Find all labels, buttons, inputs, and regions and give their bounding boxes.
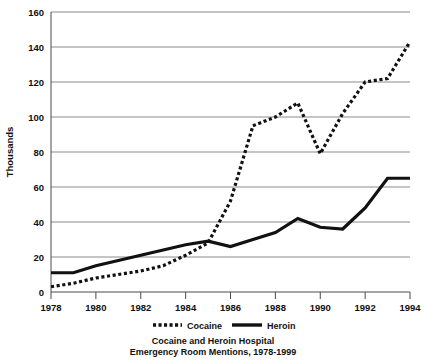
y-axis-tick-label: 40 (33, 217, 44, 228)
y-axis-tick-label: 60 (33, 182, 44, 193)
y-axis-tick-label: 20 (33, 252, 44, 263)
chart-title-line-2: Emergency Room Mentions, 1978-1999 (130, 347, 297, 357)
x-axis-tick-label: 1990 (310, 302, 331, 313)
y-axis-tick-label: 100 (28, 112, 44, 123)
x-axis-tick-label: 1986 (220, 302, 241, 313)
y-axis-tick-label: 120 (28, 77, 44, 88)
x-axis-ticks (51, 292, 410, 299)
series-line-heroin (51, 178, 410, 273)
legend: Cocaine Heroin (153, 321, 296, 331)
series-line-cocaine (51, 42, 410, 287)
x-axis-tick-label: 1988 (265, 302, 286, 313)
x-axis-tick-label: 1984 (175, 302, 197, 313)
y-axis-tick-label: 80 (33, 147, 44, 158)
y-axis-tick-label: 160 (28, 7, 44, 18)
chart-title-line-1: Cocaine and Heroin Hospital (152, 336, 275, 346)
x-axis-tick-label: 1992 (355, 302, 376, 313)
y-axis-tick-label: 0 (39, 287, 44, 298)
y-axis-tick-labels: 020406080100120140160 (28, 7, 44, 298)
gridlines (51, 12, 410, 257)
x-axis-tick-label: 1980 (85, 302, 106, 313)
x-axis-tick-labels: 197819801982198419861988199019921994 (40, 302, 421, 313)
chart-container: 020406080100120140160 197819801982198419… (0, 0, 424, 361)
y-axis-tick-label: 140 (28, 42, 44, 53)
y-axis-title: Thousands (4, 127, 15, 178)
x-axis-tick-label: 1978 (40, 302, 61, 313)
line-chart: 020406080100120140160 197819801982198419… (0, 0, 424, 361)
x-axis-tick-label: 1982 (130, 302, 151, 313)
legend-label-cocaine: Cocaine (187, 321, 222, 331)
x-axis-tick-label: 1994 (399, 302, 421, 313)
legend-label-heroin: Heroin (267, 321, 296, 331)
